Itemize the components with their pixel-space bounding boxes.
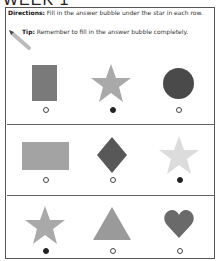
star-shape — [159, 136, 199, 174]
answer-bubble-selected[interactable] — [110, 107, 116, 113]
directions-text: Fill in the answer bubble under the star… — [45, 9, 203, 16]
row-divider — [7, 195, 215, 196]
row-divider — [7, 124, 215, 125]
diamond-shape — [97, 137, 127, 173]
tip-text: Remember to fill in the answer bubble co… — [35, 28, 188, 35]
directions-label: Directions: — [8, 9, 45, 16]
rectangle-shape — [22, 142, 69, 170]
answer-bubble[interactable] — [43, 177, 49, 183]
tip: Tip: Remember to fill in the answer bubb… — [22, 28, 188, 35]
answer-bubble[interactable] — [177, 248, 183, 254]
answer-bubble[interactable] — [43, 107, 49, 113]
answer-bubble-selected[interactable] — [177, 177, 183, 183]
directions: Directions: Fill in the answer bubble un… — [8, 9, 214, 17]
triangle-shape — [93, 207, 131, 240]
rectangle-shape — [32, 65, 57, 101]
answer-bubble[interactable] — [176, 107, 182, 113]
star-shape — [91, 64, 131, 102]
star-shape — [25, 206, 65, 244]
circle-shape — [163, 68, 194, 99]
answer-bubble[interactable] — [110, 177, 116, 183]
tip-label: Tip: — [22, 28, 35, 35]
answer-bubble[interactable] — [110, 248, 116, 254]
answer-bubble-selected[interactable] — [43, 248, 49, 254]
heart-shape — [164, 210, 194, 238]
